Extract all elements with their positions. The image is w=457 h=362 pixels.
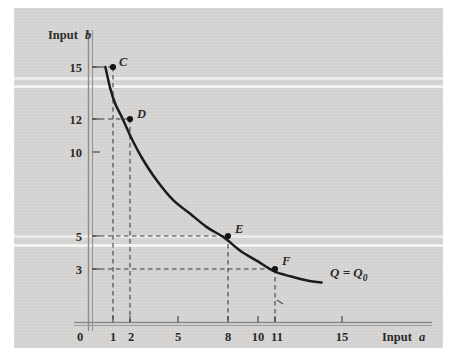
x-tick-label-10: 10 — [252, 330, 265, 344]
y-tick-label-3: 3 — [76, 263, 82, 277]
isoquant-curve — [105, 67, 321, 282]
y-axis-title-text: Input — [48, 28, 79, 42]
y-axis — [89, 30, 93, 331]
x-tick-label-0: 0 — [77, 330, 83, 344]
data-point-f — [272, 266, 278, 272]
x-axis — [74, 323, 432, 326]
point-label-e: E — [234, 222, 243, 236]
curve-label-q: Q = Q0 — [330, 265, 368, 283]
curve-label-subscript: 0 — [363, 273, 368, 283]
y-tick-label-10: 10 — [70, 146, 83, 160]
x-tick-label-8: 8 — [225, 330, 231, 344]
x-tick-label-15: 15 — [336, 330, 349, 344]
y-tick-label-12: 12 — [70, 113, 83, 127]
curve-label-main: Q = Q — [330, 265, 363, 280]
point-label-f: F — [281, 254, 291, 268]
x-tick-label-5: 5 — [175, 330, 181, 344]
guide-lines — [92, 67, 275, 322]
isoquant-figure: C D E F 15 12 10 5 3 0 1 2 5 8 10 11 15 … — [0, 0, 457, 362]
y-axis-title-var: b — [85, 28, 91, 42]
y-tick-marks — [93, 67, 101, 269]
scan-speck — [277, 300, 283, 304]
y-tick-label-15: 15 — [70, 61, 83, 75]
x-axis-title-var: a — [419, 330, 425, 344]
data-point-c — [110, 64, 116, 70]
y-axis-title: Input b — [48, 28, 91, 42]
x-tick-label-11: 11 — [271, 330, 283, 344]
data-points — [110, 64, 278, 272]
point-label-d: D — [136, 107, 146, 121]
x-axis-title: Input a — [382, 330, 425, 344]
y-tick-label-5: 5 — [76, 230, 82, 244]
point-label-c: C — [119, 55, 128, 69]
x-tick-label-2: 2 — [128, 330, 134, 344]
x-tick-label-1: 1 — [110, 330, 116, 344]
data-point-e — [225, 233, 231, 239]
chart-svg: C D E F 15 12 10 5 3 0 1 2 5 8 10 11 15 … — [0, 0, 457, 362]
data-point-d — [127, 116, 133, 122]
x-axis-title-text: Input — [382, 330, 413, 344]
